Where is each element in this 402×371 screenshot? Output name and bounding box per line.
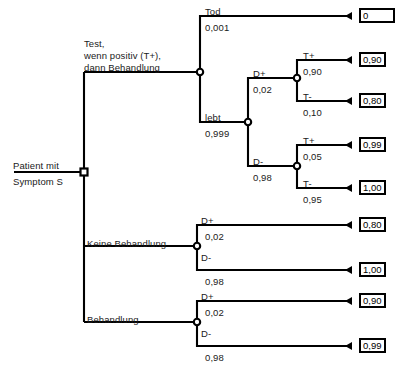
payoff-keine-dplus: 0,80 <box>359 217 386 232</box>
payoff-dplus-tplus: 0,90 <box>359 52 386 67</box>
branch-keine-dminus-prob: 0,98 <box>205 276 224 288</box>
branch-dplus-tminus-prob: 0,10 <box>303 107 322 119</box>
branch-dminus-tminus-prob: 0,95 <box>303 194 322 206</box>
edge-keine-dminus <box>197 246 352 270</box>
strategy-test-label-line1: Test, <box>84 38 105 50</box>
tree-edges <box>14 16 352 346</box>
branch-beh-dplus-label: D+ <box>201 291 214 303</box>
payoff-beh-dplus: 0,90 <box>359 293 386 308</box>
root-label-line1: Patient mit <box>13 160 59 172</box>
branch-dminus-tminus-label: T- <box>303 178 312 190</box>
chance-node-dplus <box>294 75 300 81</box>
payoff-dminus-tminus: 1,00 <box>359 180 386 195</box>
chance-node-behandlung <box>194 319 200 325</box>
branch-dplus-tminus-label: T- <box>303 91 312 103</box>
branch-tod-prob: 0,001 <box>205 22 229 34</box>
branch-test-dminus-label: D- <box>253 156 263 168</box>
payoff-keine-dminus: 1,00 <box>359 262 386 277</box>
branch-dminus-tplus-label: T+ <box>303 135 315 147</box>
payoff-dplus-tminus: 0,80 <box>359 93 386 108</box>
decision-tree-diagram: Patient mit Symptom S Test, wenn positiv… <box>0 0 402 371</box>
strategy-test-label-line2: wenn positiv (T+), <box>84 50 161 62</box>
branch-tod-label: Tod <box>205 6 221 18</box>
strategy-behandlung-label: Behandlung <box>87 314 139 326</box>
branch-beh-dplus-prob: 0,02 <box>205 307 224 319</box>
branch-keine-dminus-label: D- <box>201 252 211 264</box>
branch-dplus-tplus-label: T+ <box>303 50 315 62</box>
payoff-beh-dminus: 0,99 <box>359 338 386 353</box>
payoff-tod: 0 <box>359 8 395 23</box>
chance-node-dminus <box>294 163 300 169</box>
branch-test-dplus-label: D+ <box>253 68 266 80</box>
branch-test-dminus-prob: 0,98 <box>253 172 272 184</box>
branch-lebt-label: lebt <box>205 112 221 124</box>
chance-node-lebt <box>245 119 251 125</box>
strategy-test-label-line3: dann Behandlung <box>84 62 160 74</box>
branch-beh-dminus-label: D- <box>201 328 211 340</box>
branch-lebt-prob: 0,999 <box>205 128 229 140</box>
root-label-line2: Symptom S <box>13 176 63 188</box>
payoff-dminus-tplus: 0,99 <box>359 137 386 152</box>
chance-node-keine-behandlung <box>194 243 200 249</box>
chance-node-test <box>197 69 203 75</box>
branch-beh-dminus-prob: 0,98 <box>205 352 224 364</box>
branch-dminus-tplus-prob: 0,05 <box>303 151 322 163</box>
branch-dplus-tplus-prob: 0,90 <box>303 66 322 78</box>
edge-beh-dminus <box>197 322 352 346</box>
branch-keine-dplus-prob: 0,02 <box>205 231 224 243</box>
strategy-keine-behandlung-label: Keine Behandlung <box>87 238 166 250</box>
branch-keine-dplus-label: D+ <box>201 215 214 227</box>
root-decision-node <box>81 169 88 176</box>
branch-test-dplus-prob: 0,02 <box>253 84 272 96</box>
